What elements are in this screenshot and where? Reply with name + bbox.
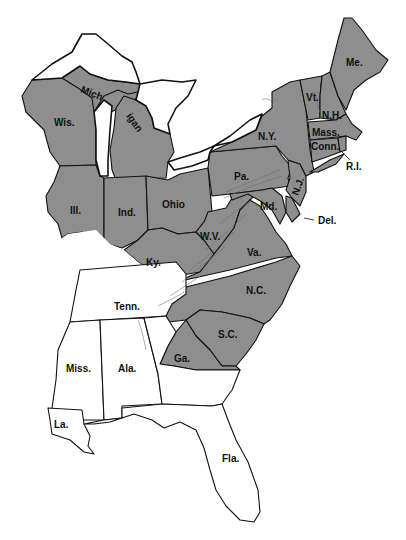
- label-delaware: Del.: [318, 215, 337, 226]
- label-georgia: Ga.: [174, 353, 190, 364]
- label-wisconsin: Wis.: [54, 117, 75, 128]
- label-mississippi: Miss.: [66, 363, 91, 374]
- label-massachusetts: Mass.: [312, 127, 340, 138]
- label-north-carolina: N.C.: [246, 285, 266, 296]
- label-connecticut: Conn.: [311, 141, 340, 152]
- label-ohio: Ohio: [162, 199, 185, 210]
- rhode-island-leader-line: [342, 152, 350, 160]
- label-maryland: Md.: [260, 201, 277, 212]
- label-illinois: Ill.: [70, 205, 81, 216]
- lake-erie: [168, 146, 214, 170]
- lake-michigan: [94, 100, 112, 176]
- label-maine: Me.: [346, 57, 363, 68]
- state-pennsylvania: [208, 146, 292, 196]
- label-rhode-island: R.I.: [346, 161, 362, 172]
- label-florida: Fla.: [222, 453, 239, 464]
- label-west-virginia: W.V.: [200, 231, 220, 242]
- label-new-york: N.Y.: [258, 131, 277, 142]
- eastern-us-map: Mich igan Wis. Ill. Ind. Ohio Ky. W.V. V…: [0, 0, 406, 540]
- label-pennsylvania: Pa.: [234, 171, 249, 182]
- label-south-carolina: S.C.: [218, 329, 238, 340]
- label-kentucky: Ky.: [146, 257, 161, 268]
- label-tennessee: Tenn.: [114, 301, 140, 312]
- delaware-leader-line: [304, 218, 314, 220]
- label-new-hampshire: N.H.: [322, 110, 342, 121]
- unshaded-region: [48, 230, 260, 522]
- label-louisiana: La.: [54, 419, 69, 430]
- label-vermont: Vt.: [306, 92, 319, 103]
- label-indiana: Ind.: [118, 207, 136, 218]
- label-virginia: Va.: [247, 247, 262, 258]
- label-alabama: Ala.: [118, 363, 137, 374]
